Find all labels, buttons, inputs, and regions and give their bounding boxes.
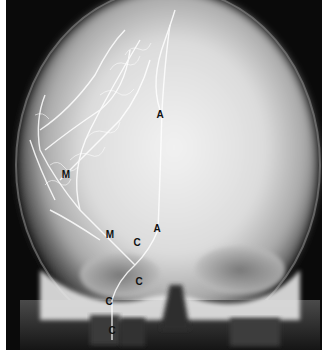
label-carotid-artery-1: C <box>133 238 140 248</box>
angiogram-image: A M M C A C C C <box>6 0 322 350</box>
label-carotid-artery-3: C <box>105 297 112 307</box>
label-anterior-cerebral-artery-upper: A <box>156 110 163 120</box>
label-anterior-cerebral-artery-lower: A <box>153 224 160 234</box>
xray-rendering <box>6 0 322 350</box>
label-carotid-artery-4: C <box>108 326 115 336</box>
label-middle-cerebral-artery-lower: M <box>106 230 114 240</box>
label-middle-cerebral-artery-upper: M <box>62 170 70 180</box>
label-carotid-artery-2: C <box>135 277 142 287</box>
